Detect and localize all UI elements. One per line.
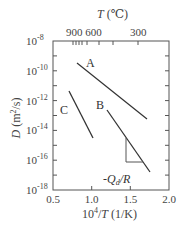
svg-text:10-12: 10-12 [26, 93, 48, 107]
slope-annotation: -Qd/R [103, 172, 131, 187]
label-a: A [86, 56, 95, 70]
y-tick-labels: 10-8 10-10 10-12 10-14 10-16 10-18 [26, 33, 48, 196]
svg-text:10-10: 10-10 [26, 63, 48, 77]
top-axis-title: T (℃) [97, 7, 128, 21]
series-line-a [77, 63, 147, 119]
series-line-b [107, 110, 150, 172]
x-axis-ticks [92, 186, 131, 190]
arrhenius-chart: A B C -Qd/R T (℃) 900 600 300 10-8 10-10… [0, 0, 186, 232]
svg-text:10-8: 10-8 [26, 33, 44, 47]
svg-text:1.5: 1.5 [123, 193, 137, 205]
label-b: B [96, 98, 104, 112]
top-tick-900-600: 900 600 [66, 26, 102, 38]
svg-text:10-18: 10-18 [26, 182, 48, 196]
svg-text:0.5: 0.5 [46, 193, 60, 205]
top-tick-300: 300 [130, 26, 147, 38]
series-line-c [69, 91, 93, 138]
svg-text:2.0: 2.0 [162, 193, 176, 205]
top-axis-ticks [73, 41, 138, 45]
label-c: C [60, 103, 68, 117]
svg-text:10-14: 10-14 [26, 122, 48, 136]
svg-text:1.0: 1.0 [85, 193, 99, 205]
y-axis-title: D (m2/s) [9, 97, 23, 139]
x-tick-labels: 0.5 1.0 1.5 2.0 [46, 193, 176, 205]
x-axis-title: 104/T (1/K) [82, 206, 137, 221]
svg-text:10-16: 10-16 [26, 152, 48, 166]
